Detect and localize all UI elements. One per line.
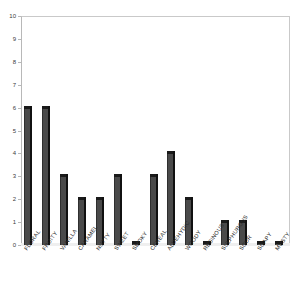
bar-slot [236, 16, 254, 245]
y-axis-tick-label: 10 [0, 12, 16, 20]
bar-side-face [30, 106, 32, 245]
y-axis-tick-label: 6 [0, 104, 16, 112]
bar-slot [57, 16, 75, 245]
bar[interactable] [42, 108, 50, 245]
bars-layer [21, 16, 290, 245]
bar-slot [147, 16, 165, 245]
bar-slot [272, 16, 290, 245]
x-axis: FLORALFRUITYVANILLACARAMELNUTTYSWEETSMOK… [21, 246, 290, 308]
bar-slot [164, 16, 182, 245]
bar[interactable] [114, 176, 122, 245]
y-axis: 012345678910 [0, 10, 18, 251]
y-axis-tick-label: 1 [0, 218, 16, 226]
y-axis-tick-label: 2 [0, 195, 16, 203]
bar-slot [21, 16, 39, 245]
bar-slot [182, 16, 200, 245]
y-axis-tick-label: 7 [0, 81, 16, 89]
y-axis-tick-label: 9 [0, 35, 16, 43]
bar-side-face [48, 106, 50, 245]
bar-slot [129, 16, 147, 245]
bar-slot [200, 16, 218, 245]
y-axis-tick-label: 4 [0, 149, 16, 157]
y-axis-tick-label: 8 [0, 58, 16, 66]
bar-slot [254, 16, 272, 245]
bar-chart: 012345678910 FLORALFRUITYVANILLACARAMELN… [0, 0, 301, 308]
bar-side-face [173, 151, 175, 245]
bar[interactable] [24, 108, 32, 245]
y-axis-tick-label: 3 [0, 172, 16, 180]
bar[interactable] [167, 153, 175, 245]
bar-slot [39, 16, 57, 245]
bar-slot [218, 16, 236, 245]
bar[interactable] [150, 176, 158, 245]
bar-slot [75, 16, 93, 245]
bar-slot [111, 16, 129, 245]
bar-slot [93, 16, 111, 245]
y-axis-tick-label: 0 [0, 241, 16, 249]
y-axis-tick-label: 5 [0, 127, 16, 135]
